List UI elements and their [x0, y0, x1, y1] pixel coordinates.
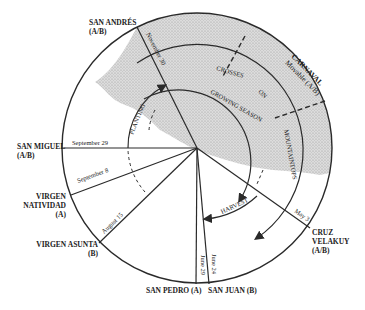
festival-name-line1: VIRGEN [20, 192, 66, 201]
festival-group: (A) [20, 210, 66, 219]
festival-name: SAN ANDRÉS [89, 18, 136, 27]
harvest-dashed [257, 170, 263, 184]
date-sep29: September 29 [72, 139, 108, 146]
festival-group: (A/B) [17, 151, 65, 160]
festival-san-miguel: SAN MIGUEL (A/B) [17, 142, 65, 160]
festival-san-pedro: SAN PEDRO (A) [146, 286, 201, 295]
festival-name: SAN MIGUEL [17, 142, 65, 151]
festival-cruz-velakuy: CRUZ VELAKUY (A/B) [312, 228, 350, 255]
festival-virgen-natividad: VIRGEN NATIVIDAD (A) [20, 192, 66, 219]
festival-name-line2: NATIVIDAD [20, 201, 66, 210]
date-may3: May 3 [293, 207, 311, 222]
festival-name: SAN JUAN (B) [208, 286, 257, 295]
festival-san-andres: SAN ANDRÉS (A/B) [89, 18, 136, 36]
line-san-pedro [196, 148, 197, 284]
label-planting: PLANTING [127, 102, 146, 135]
festival-name-line2: VELAKUY [312, 237, 350, 246]
festival-name: VIRGEN ASUNTA [30, 240, 98, 249]
festival-name-line1: CRUZ [312, 228, 350, 237]
date-sep8: September 8 [76, 166, 109, 184]
festival-group: (A/B) [89, 27, 136, 36]
date-jun24: June 24 [211, 254, 218, 275]
date-jun29: June 29 [200, 255, 207, 275]
festival-name: SAN PEDRO (A) [146, 286, 201, 295]
festival-group: (B) [30, 249, 98, 258]
festival-san-juan: SAN JUAN (B) [208, 286, 257, 295]
festival-group: (A/B) [312, 246, 350, 255]
line-virgen-asunta [99, 148, 197, 243]
festival-virgen-asunta: VIRGEN ASUNTA (B) [30, 240, 98, 258]
